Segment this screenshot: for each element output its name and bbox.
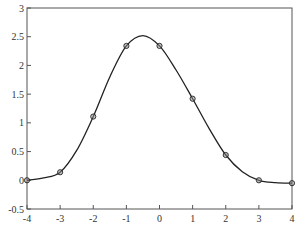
data-point-marker: [256, 178, 261, 183]
data-point-marker: [91, 114, 96, 119]
data-point-marker: [157, 43, 162, 48]
data-point-marker: [289, 181, 294, 186]
x-tick-label: 2: [223, 213, 228, 224]
x-tick-label: 4: [290, 213, 295, 224]
x-tick-label: 0: [157, 213, 162, 224]
y-tick-label: 0.5: [12, 146, 25, 157]
x-tick-label: -1: [122, 213, 130, 224]
y-tick-label: -0.5: [8, 204, 24, 215]
data-point-marker: [190, 96, 195, 101]
y-tick-label: 2: [19, 60, 24, 71]
y-tick-label: 1.5: [12, 89, 25, 100]
x-tick-label: 3: [256, 213, 261, 224]
data-point-marker: [24, 178, 29, 183]
y-tick-label: 2.5: [12, 31, 25, 42]
x-tick-label: -3: [56, 213, 64, 224]
y-tick-label: 3: [19, 3, 24, 14]
data-point-marker: [124, 43, 129, 48]
y-tick-label: 1: [19, 117, 24, 128]
x-tick-label: 1: [190, 213, 195, 224]
plot-area: [27, 8, 292, 209]
data-point-marker: [58, 170, 63, 175]
chart: -0.500.511.522.53 -4-3-2-101234: [0, 0, 296, 234]
x-tick-label: -2: [89, 213, 97, 224]
data-point-marker: [223, 152, 228, 157]
x-tick-label: -4: [23, 213, 31, 224]
y-tick-label: 0: [19, 175, 24, 186]
